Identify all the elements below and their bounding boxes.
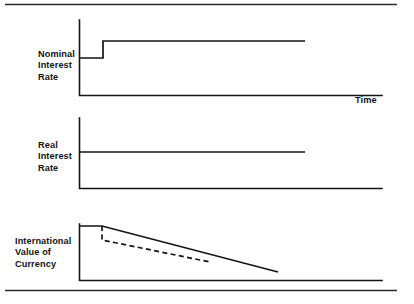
currency-value-solid-line xyxy=(79,226,278,272)
axis-label-time: Time xyxy=(355,95,377,106)
currency-value-dashed-line xyxy=(102,226,210,262)
axis-label-intl-line-1: International xyxy=(15,236,71,247)
axis-label-nominal-line-1: Nominal xyxy=(38,49,75,60)
nominal-interest-rate-line xyxy=(79,41,305,58)
panel-international-value-of-currency xyxy=(79,224,382,281)
panel-2-axes xyxy=(80,118,383,189)
axis-label-international-value-of-currency: International Value of Currency xyxy=(15,236,71,270)
axis-label-nominal-interest-rate: Nominal Interest Rate xyxy=(38,49,75,83)
panel-1-axes xyxy=(80,20,383,96)
axis-label-intl-line-2: Value of xyxy=(15,247,71,258)
axis-label-real-interest-rate: Real Interest Rate xyxy=(38,140,72,174)
axis-label-real-line-2: Interest xyxy=(38,151,72,162)
figure-container: Nominal Interest Rate Real Interest Rate… xyxy=(0,0,414,304)
axis-label-real-line-1: Real xyxy=(38,140,72,151)
panel-nominal-interest-rate xyxy=(79,20,382,96)
panel-real-interest-rate xyxy=(79,118,382,189)
axis-label-intl-line-3: Currency xyxy=(15,259,71,270)
axis-label-real-line-3: Rate xyxy=(38,163,72,174)
axis-label-nominal-line-3: Rate xyxy=(38,72,75,83)
axis-label-nominal-line-2: Interest xyxy=(38,60,75,71)
